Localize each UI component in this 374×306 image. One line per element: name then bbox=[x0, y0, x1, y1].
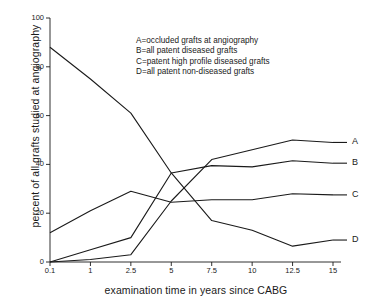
series-line-d bbox=[50, 47, 333, 246]
plot-area bbox=[0, 0, 374, 306]
chart-figure: percent of all grafts studied at angiogr… bbox=[0, 0, 374, 306]
series-line-b bbox=[50, 161, 333, 262]
